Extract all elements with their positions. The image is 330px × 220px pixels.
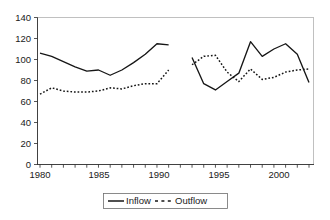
chart-legend[interactable]: Inflow Outflow bbox=[104, 194, 228, 209]
x-axis-ticks bbox=[40, 165, 309, 168]
y-tick-label-80: 80 bbox=[20, 75, 31, 86]
y-tick-label-40: 40 bbox=[20, 117, 31, 128]
x-axis-tick-labels: 1980 1985 1990 1995 2000 bbox=[29, 169, 289, 180]
y-axis-tick-labels: 0 20 40 60 80 100 120 140 bbox=[15, 12, 31, 170]
legend-label-inflow: Inflow bbox=[126, 195, 151, 206]
series-outflow-segment-1 bbox=[192, 55, 309, 81]
x-tick-label-1980: 1980 bbox=[29, 169, 50, 180]
y-tick-label-120: 120 bbox=[15, 33, 31, 44]
series-inflow-segment-0 bbox=[40, 44, 169, 76]
series-outflow-segment-0 bbox=[40, 70, 169, 94]
x-tick-label-1990: 1990 bbox=[148, 169, 169, 180]
x-tick-label-1995: 1995 bbox=[208, 169, 229, 180]
y-tick-label-140: 140 bbox=[15, 12, 31, 23]
chart-screenshot: 0 20 40 60 80 100 120 140 1980 1985 1990… bbox=[0, 0, 330, 220]
y-tick-label-60: 60 bbox=[20, 96, 31, 107]
y-axis-ticks bbox=[34, 18, 38, 165]
x-tick-label-2000: 2000 bbox=[268, 169, 289, 180]
series-inflow-segment-1 bbox=[192, 42, 309, 90]
legend-label-outflow: Outflow bbox=[175, 195, 207, 206]
series-lines bbox=[40, 42, 309, 95]
y-tick-label-20: 20 bbox=[20, 138, 31, 149]
x-tick-label-1985: 1985 bbox=[88, 169, 109, 180]
plot-frame bbox=[37, 18, 314, 165]
y-tick-label-100: 100 bbox=[15, 54, 31, 65]
line-chart: 0 20 40 60 80 100 120 140 1980 1985 1990… bbox=[0, 0, 330, 220]
